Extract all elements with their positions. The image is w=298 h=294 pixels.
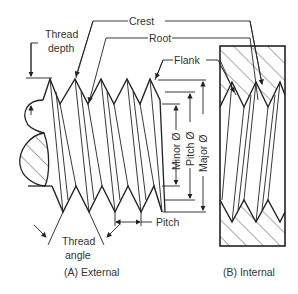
thread-angle-label-line1: Thread [62,235,95,247]
pitch-diameter-label: Pitch Ø [184,132,196,166]
crest-label: Crest [129,15,154,27]
external-caption: (A) External [64,266,119,278]
pitch-label: Pitch [156,216,180,228]
internal-thread [220,46,285,246]
major-diameter-label: Major Ø [197,135,209,172]
root-label: Root [149,32,171,44]
thread-depth-label-line1: Thread [45,28,78,40]
thread-depth-label-line2: depth [48,42,74,54]
flank-label: Flank [174,54,200,66]
thread-angle-label-line2: angle [65,249,91,261]
thread-diagram: Crest Root Flank Thread depth Minor Ø Pi… [0,0,298,294]
external-thread [20,79,165,212]
internal-caption: (B) Internal [223,266,275,278]
minor-diameter-label: Minor Ø [170,133,182,170]
